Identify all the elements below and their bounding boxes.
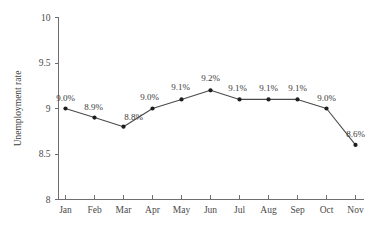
x-tick-label-aug: Aug — [260, 205, 277, 215]
x-tick-label-oct: Oct — [320, 205, 334, 215]
unemployment-rate-line-chart: 88.599.510 JanFebMarAprMayJunJulAugSepOc… — [0, 0, 375, 240]
x-tick-label-apr: Apr — [145, 205, 161, 215]
data-series-line — [66, 90, 356, 145]
data-point-may — [179, 97, 183, 101]
x-tick-label-sep: Sep — [290, 205, 305, 215]
x-axis-tick-labels: JanFebMarAprMayJunJulAugSepOctNov — [59, 205, 364, 215]
data-point-label-oct: 9.0% — [317, 93, 336, 103]
data-point-label-nov: 8.6% — [346, 129, 365, 139]
data-point-label-aug: 9.1% — [259, 83, 278, 93]
data-point-label-mar: 8.8% — [124, 112, 143, 122]
data-point-jul — [237, 97, 241, 101]
y-tick-label-8: 8 — [46, 195, 51, 205]
x-tick-label-may: May — [173, 205, 191, 215]
x-axis-ticks — [66, 195, 356, 200]
data-point-label-jul: 9.1% — [228, 83, 247, 93]
data-point-jan — [63, 106, 67, 110]
y-tick-label-8.5: 8.5 — [39, 149, 51, 159]
data-point-mar — [121, 125, 125, 129]
data-series-markers — [63, 88, 357, 147]
data-point-nov — [353, 143, 357, 147]
x-tick-label-feb: Feb — [87, 205, 102, 215]
x-tick-label-jul: Jul — [234, 205, 245, 215]
data-point-label-jun: 9.2% — [201, 73, 220, 83]
data-point-label-sep: 9.1% — [288, 83, 307, 93]
chart-canvas: 88.599.510 JanFebMarAprMayJunJulAugSepOc… — [0, 0, 375, 240]
data-point-apr — [150, 106, 154, 110]
data-point-oct — [324, 106, 328, 110]
data-point-label-may: 9.1% — [171, 82, 190, 92]
data-point-aug — [266, 97, 270, 101]
data-point-feb — [92, 116, 96, 120]
data-point-jun — [208, 88, 212, 92]
y-axis-tick-labels: 88.599.510 — [39, 13, 51, 205]
data-point-label-feb: 8.9% — [84, 102, 103, 112]
x-tick-label-jun: Jun — [204, 205, 217, 215]
x-tick-label-nov: Nov — [347, 205, 364, 215]
y-axis-ticks — [55, 18, 59, 200]
y-tick-label-9.5: 9.5 — [39, 58, 51, 68]
y-tick-label-9: 9 — [46, 104, 51, 114]
y-axis-title: Unemployment rate — [13, 71, 23, 147]
data-point-label-apr: 9.0% — [140, 92, 159, 102]
y-tick-label-10: 10 — [41, 13, 51, 23]
data-point-label-jan: 9.0% — [56, 93, 75, 103]
plot-area: 88.599.510 JanFebMarAprMayJunJulAugSepOc… — [13, 13, 365, 215]
x-tick-label-jan: Jan — [59, 205, 72, 215]
data-point-sep — [295, 97, 299, 101]
x-tick-label-mar: Mar — [116, 205, 133, 215]
